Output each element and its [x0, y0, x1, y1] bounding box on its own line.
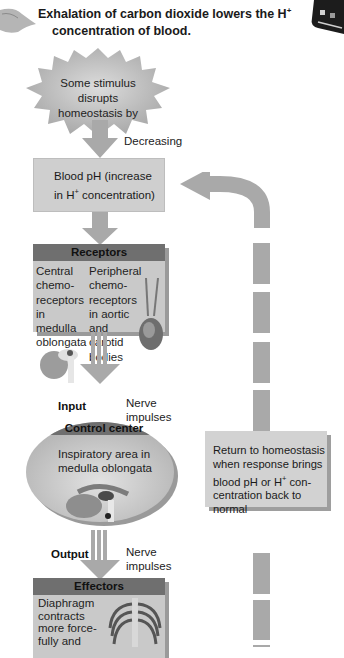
output-signal-label: Nerveimpulses — [126, 545, 171, 573]
output-label: Output — [51, 548, 89, 560]
input-label: Input — [58, 400, 86, 412]
feedback-curved-arrow — [180, 172, 280, 232]
controlled-variable-box: Blood pH (increase in H+ concentration) — [33, 158, 165, 212]
stimulus-text: Some stimulus disrupts homeostasis by — [44, 76, 152, 121]
control-center-ellipse — [24, 420, 184, 532]
control-center-text: Inspiratory area inmedulla oblongata — [58, 447, 158, 475]
feedback-dash — [253, 600, 270, 640]
figure-title: Exhalation of carbon dioxide lowers the … — [38, 2, 298, 40]
title-line1: Exhalation of carbon dioxide lowers the … — [38, 7, 287, 21]
receptors-header: Receptors — [33, 244, 165, 261]
ribcage-illustration — [106, 598, 164, 647]
decreasing-label: Decreasing — [124, 134, 182, 148]
input-arrow — [78, 332, 122, 384]
return-to-homeostasis-box: Return to homeostasis when response brin… — [205, 431, 327, 507]
heart-illustration — [136, 276, 166, 356]
effectors-text: Diaphragmcontractsmore force-fully and — [38, 597, 97, 647]
feedback-dash — [253, 243, 270, 284]
feedback-dash — [253, 342, 270, 383]
arrow-to-receptors — [80, 212, 120, 246]
control-center-header: Control center — [60, 422, 148, 434]
feedback-dash — [253, 292, 270, 333]
partial-lungs-illustration — [0, 4, 38, 34]
stimulus-arrow — [80, 120, 120, 160]
effectors-header: Effectors — [33, 578, 165, 595]
feedback-dash — [253, 645, 270, 647]
title-line2: concentration of blood. — [38, 23, 298, 40]
partial-device-illustration — [306, 0, 344, 36]
feedback-dash — [253, 553, 270, 594]
